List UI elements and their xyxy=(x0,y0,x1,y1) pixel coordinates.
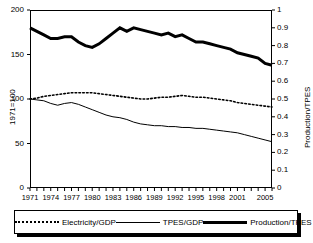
legend-label: TPES/GDP xyxy=(163,218,203,227)
y-tick-label-left: 50 xyxy=(2,140,24,148)
y-tick-label-right: 0 xyxy=(277,184,299,192)
legend-swatch-thin xyxy=(116,218,160,226)
y-tick-label-right: 0.2 xyxy=(277,148,299,156)
plot-area xyxy=(30,10,272,188)
y-tick-label-left: 0 xyxy=(2,184,24,192)
x-tick-label: 2005 xyxy=(252,194,278,202)
y-tick-label-right: 0.1 xyxy=(277,166,299,174)
legend-item: Electricity/GDP xyxy=(15,218,116,227)
x-tick-label: 2001 xyxy=(224,194,250,202)
y-tick-label-left: 150 xyxy=(2,51,24,59)
y-axis-title-left: 1971=100 xyxy=(8,89,17,125)
legend-item: TPES/GDP xyxy=(116,218,203,227)
legend-label: Production/TPES xyxy=(250,218,311,227)
legend-item: Production/TPES xyxy=(203,218,311,227)
legend-swatch-thick xyxy=(203,218,247,226)
y-tick-label-right: 0.5 xyxy=(277,95,299,103)
y-axis-title-right: Production/TPES xyxy=(303,87,312,148)
y-tick-label-right: 0.4 xyxy=(277,113,299,121)
y-tick-label-right: 0.8 xyxy=(277,42,299,50)
legend-swatch-dotted xyxy=(15,218,59,226)
y-tick-label-right: 1 xyxy=(277,6,299,14)
y-tick-label-right: 0.3 xyxy=(277,131,299,139)
y-tick-label-right: 0.6 xyxy=(277,77,299,85)
chart-legend: Electricity/GDPTPES/GDPProduction/TPES xyxy=(14,210,298,234)
y-tick-label-right: 0.9 xyxy=(277,24,299,32)
y-tick-label-right: 0.7 xyxy=(277,59,299,67)
y-tick-label-left: 200 xyxy=(2,6,24,14)
chart-figure: 05010015020000.10.20.30.40.50.60.70.80.9… xyxy=(0,0,313,243)
legend-label: Electricity/GDP xyxy=(62,218,116,227)
